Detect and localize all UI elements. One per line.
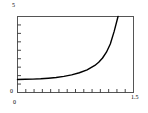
x-axis-ticks xyxy=(26,89,125,93)
data-series-curve xyxy=(18,17,119,80)
plot-area xyxy=(0,0,148,113)
y-axis-ticks xyxy=(18,25,22,84)
chart-figure: 5 0 0 1.5 xyxy=(0,0,148,113)
plot-frame xyxy=(18,17,134,93)
